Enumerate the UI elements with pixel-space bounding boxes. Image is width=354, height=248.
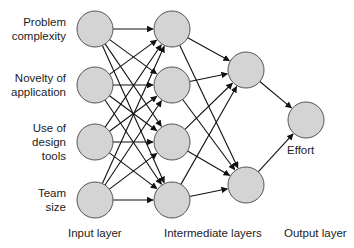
label-line: tools [0,149,66,163]
label-line: size [0,200,66,214]
connection-arrow [190,189,228,197]
input-node [77,11,113,47]
label-line: Team [0,186,66,200]
output-layer-label: Output layer [284,227,347,239]
hidden-node-layer1 [154,124,190,160]
hidden-node-layer1 [154,182,190,218]
hidden-node-layer1 [154,67,190,103]
connections [102,29,293,200]
output-node [288,102,324,138]
input-label-team-size: Team size [0,186,66,214]
label-line: complexity [0,29,66,43]
hidden-node-layer2 [228,52,264,88]
input-label-novelty: Novelty of application [0,71,66,99]
intermediate-layers-label: Intermediate layers [164,227,262,239]
connection-arrow [188,38,230,61]
hidden-node-layer1 [154,11,190,47]
output-label-effort: Effort [287,143,314,157]
input-node [77,67,113,103]
input-label-problem-complexity: Problem complexity [0,15,66,43]
input-layer-label: Input layer [68,227,122,239]
input-node [77,182,113,218]
label-line: application [0,85,66,99]
label-line: Use of [0,121,66,135]
input-label-design-tools: Use of design tools [0,121,66,163]
label-line: Novelty of [0,71,66,85]
connection-arrow [260,82,292,108]
label-line: design [0,135,66,149]
hidden-node-layer2 [228,167,264,203]
input-node [77,124,113,160]
label-line: Problem [0,15,66,29]
